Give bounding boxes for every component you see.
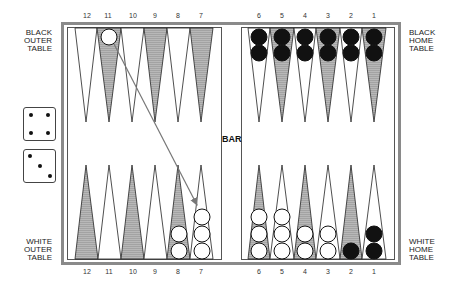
black-checker[interactable] [251, 45, 267, 61]
white-checker[interactable] [251, 243, 267, 259]
white-checker[interactable] [320, 243, 336, 259]
point-number: 3 [321, 12, 335, 19]
point-number: 4 [298, 12, 312, 19]
black-checker[interactable] [297, 29, 313, 45]
black-checker[interactable] [343, 243, 359, 259]
white-checker[interactable] [251, 209, 267, 225]
point-number: 8 [171, 12, 185, 19]
point-number: 1 [367, 268, 381, 275]
point-number: 9 [148, 268, 162, 275]
point-number: 1 [367, 12, 381, 19]
white-checker[interactable] [171, 226, 187, 242]
point-number: 5 [275, 268, 289, 275]
white-checker[interactable] [274, 209, 290, 225]
white-checker[interactable] [101, 29, 117, 45]
black-checker[interactable] [366, 243, 382, 259]
black-checker[interactable] [297, 45, 313, 61]
point-number: 9 [148, 12, 162, 19]
point-number: 10 [126, 268, 140, 275]
white-checker[interactable] [251, 226, 267, 242]
black-checker[interactable] [274, 29, 290, 45]
point-number: 12 [80, 12, 94, 19]
black-checker[interactable] [366, 29, 382, 45]
point-number: 6 [252, 12, 266, 19]
point-number: 7 [194, 268, 208, 275]
white-checker[interactable] [297, 243, 313, 259]
black-checker[interactable] [343, 29, 359, 45]
white-checker[interactable] [171, 243, 187, 259]
point-number: 5 [275, 12, 289, 19]
black-checker[interactable] [320, 29, 336, 45]
point-number: 11 [102, 268, 116, 275]
black-checker[interactable] [366, 226, 382, 242]
black-checker[interactable] [343, 45, 359, 61]
point-number: 8 [171, 268, 185, 275]
black-checker[interactable] [366, 45, 382, 61]
backgammon-board [0, 0, 461, 291]
point-number: 4 [298, 268, 312, 275]
white-checker[interactable] [274, 226, 290, 242]
black-checker[interactable] [251, 29, 267, 45]
white-checker[interactable] [320, 226, 336, 242]
point-number: 2 [344, 12, 358, 19]
white-checker[interactable] [274, 243, 290, 259]
point-number: 10 [126, 12, 140, 19]
point-number: 12 [80, 268, 94, 275]
bar-label: BAR [222, 134, 242, 144]
point-number: 11 [101, 12, 115, 19]
point-number: 6 [252, 268, 266, 275]
white-checker[interactable] [194, 209, 210, 225]
point-number: 3 [321, 268, 335, 275]
point-number: 2 [344, 268, 358, 275]
white-checker[interactable] [194, 226, 210, 242]
white-checker[interactable] [297, 226, 313, 242]
white-checker[interactable] [194, 243, 210, 259]
point-number: 7 [194, 12, 208, 19]
black-checker[interactable] [320, 45, 336, 61]
black-checker[interactable] [274, 45, 290, 61]
